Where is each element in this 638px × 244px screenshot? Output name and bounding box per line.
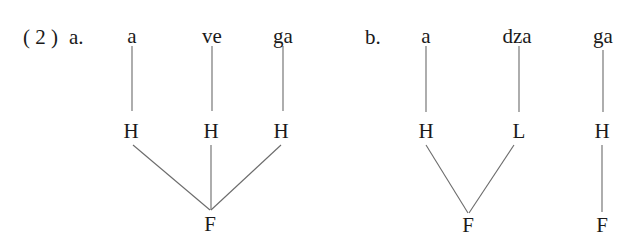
foot-b-1: F — [462, 215, 474, 236]
foot-line-a-3 — [211, 145, 281, 210]
tone-b-1: H — [418, 121, 433, 142]
syllable-b-2: dza — [502, 26, 531, 47]
syllable-a-2: ve — [202, 26, 222, 47]
foot-a-1: F — [204, 214, 216, 235]
syllable-a-1: a — [127, 26, 136, 47]
syllable-a-3: ga — [273, 26, 293, 47]
tone-b-2: L — [513, 121, 526, 142]
foot-line-a-1 — [133, 145, 210, 210]
tone-a-1: H — [123, 121, 138, 142]
syllable-b-3: ga — [593, 26, 613, 47]
example-number: ( 2 ) — [23, 27, 58, 48]
foot-b-2: F — [596, 215, 608, 236]
part-a-label: a. — [69, 27, 84, 48]
foot-line-b-2 — [469, 145, 514, 213]
association-lines — [0, 0, 638, 244]
syllable-b-1: a — [421, 26, 430, 47]
tone-b-3: H — [594, 121, 609, 142]
autosegmental-diagram: ( 2 ) a. b. a ve ga H H H F a dza ga H L… — [0, 0, 638, 244]
tone-a-3: H — [273, 121, 288, 142]
tone-a-2: H — [203, 121, 218, 142]
part-b-label: b. — [365, 27, 381, 48]
foot-line-b-1 — [426, 145, 468, 213]
